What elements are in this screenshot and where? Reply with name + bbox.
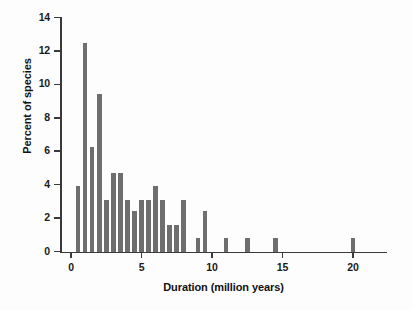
histogram-bar <box>97 94 102 251</box>
y-tick-mark <box>54 84 60 86</box>
x-tick-mark <box>282 252 284 258</box>
histogram-bar <box>90 147 95 251</box>
y-axis-line <box>60 17 62 253</box>
histogram-bar <box>167 225 172 252</box>
histogram-bar <box>174 225 179 252</box>
x-axis-line <box>60 252 387 254</box>
y-tick-mark <box>54 50 60 52</box>
x-tick-mark <box>352 252 354 258</box>
y-tick-mark <box>54 184 60 186</box>
x-tick-label: 20 <box>333 261 373 273</box>
histogram-bar <box>245 238 250 251</box>
histogram-bar <box>132 211 137 251</box>
x-axis-title: Duration (million years) <box>60 281 387 293</box>
x-tick-mark <box>141 252 143 258</box>
histogram-bar <box>160 200 165 252</box>
histogram-bar <box>153 186 158 251</box>
histogram-bar <box>76 186 81 251</box>
histogram-plot-area: 02468101214 05101520 Percent of species … <box>0 0 413 310</box>
y-tick-mark <box>54 17 60 19</box>
y-tick-label: 0 <box>20 245 50 257</box>
y-tick-mark <box>54 150 60 152</box>
x-tick-label: 5 <box>122 261 162 273</box>
chart-screenshot: 02468101214 05101520 Percent of species … <box>0 0 413 310</box>
histogram-bar <box>196 238 201 251</box>
x-tick-mark <box>211 252 213 258</box>
histogram-bar <box>118 173 123 252</box>
histogram-bar <box>146 200 151 252</box>
x-tick-mark <box>70 252 72 258</box>
x-tick-label: 15 <box>263 261 303 273</box>
histogram-bar <box>83 43 88 252</box>
histogram-bar <box>203 211 208 251</box>
y-tick-mark <box>54 251 60 253</box>
y-tick-mark <box>54 217 60 219</box>
histogram-bar <box>125 200 130 252</box>
x-tick-label: 0 <box>51 261 91 273</box>
y-axis-title: Percent of species <box>21 31 33 181</box>
histogram-bar <box>181 200 186 252</box>
histogram-bar <box>139 200 144 252</box>
x-tick-label: 10 <box>192 261 232 273</box>
y-tick-label: 2 <box>20 211 50 223</box>
histogram-bar <box>111 173 116 252</box>
histogram-bar <box>273 238 278 251</box>
histogram-bar <box>351 238 356 251</box>
histogram-bar <box>224 238 229 251</box>
y-tick-mark <box>54 117 60 119</box>
histogram-bar <box>104 200 109 252</box>
y-tick-label: 14 <box>20 11 50 23</box>
